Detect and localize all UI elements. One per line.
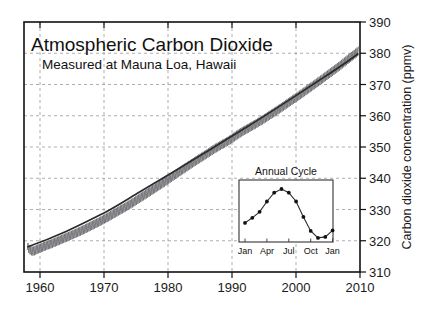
co2-chart-figure: 390 380 370 360 350 340 330 320 310 Carb…: [0, 0, 421, 309]
chart-title: Atmospheric Carbon Dioxide: [31, 34, 273, 55]
chart-svg: 390 380 370 360 350 340 330 320 310 Carb…: [0, 0, 421, 309]
inset-tick-label: Jul: [283, 246, 295, 256]
y-tick-label: 320: [369, 234, 391, 249]
inset-tick-label: Jan: [325, 246, 340, 256]
y-tick-label: 360: [369, 109, 391, 124]
y-tick-label: 370: [369, 78, 391, 93]
x-tick-label: 1970: [90, 280, 119, 295]
x-tick-label: 2000: [282, 280, 311, 295]
x-axis-tick-labels: 1960 1970 1980 1990 2000 2010: [26, 280, 375, 295]
y-tick-label: 380: [369, 46, 391, 61]
chart-subtitle: Measured at Mauna Loa, Hawaii: [42, 57, 236, 72]
y-tick-label: 330: [369, 203, 391, 218]
x-tick-label: 2010: [346, 280, 375, 295]
x-tick-label: 1990: [218, 280, 247, 295]
y-tick-label: 350: [369, 140, 391, 155]
inset-tick-label: Oct: [304, 246, 319, 256]
y-tick-label: 340: [369, 171, 391, 186]
inset-tick-label: Apr: [260, 246, 274, 256]
x-tick-label: 1960: [26, 280, 55, 295]
y-axis-tick-labels: 390 380 370 360 350 340 330 320 310: [369, 15, 391, 280]
x-tick-label: 1980: [154, 280, 183, 295]
inset-tick-label: Jan: [238, 246, 253, 256]
y-tick-label: 390: [369, 15, 391, 30]
inset-title: Annual Cycle: [255, 165, 317, 177]
inset-frame: [239, 180, 333, 242]
y-axis-title: Carbon dioxide concentration (ppmv): [400, 45, 414, 250]
y-axis-ticks: [360, 22, 366, 272]
y-tick-label: 310: [369, 265, 391, 280]
